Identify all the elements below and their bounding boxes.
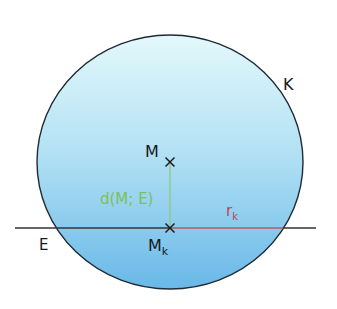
label-plane-e: E xyxy=(39,236,48,254)
label-distance: d(M; E) xyxy=(100,190,153,208)
label-mk-sub: k xyxy=(162,245,169,258)
label-rk-sub: k xyxy=(232,211,238,222)
label-sphere-k: K xyxy=(283,75,294,94)
sphere-plane-intersection-diagram: K E M Mk d(M; E) rk xyxy=(0,0,337,309)
label-center-m: M xyxy=(145,142,159,161)
label-mk-main: M xyxy=(148,236,162,255)
